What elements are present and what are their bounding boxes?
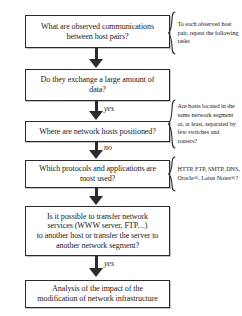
flow-node-label: Where are network hosts positioned? [28, 127, 167, 137]
flow-node-transfer-network-services[interactable]: Is it possible to transfer network servi… [25, 206, 170, 256]
flow-node-network-hosts-positioned[interactable]: Where are network hosts positioned? [25, 121, 170, 142]
annotation-text: HTTP, FTP, SMTP, DNS, Oracle®, Lotus Not… [176, 165, 240, 183]
annotation-protocol-list: HTTP, FTP, SMTP, DNS, Oracle®, Lotus Not… [168, 156, 240, 192]
curly-brace-icon [168, 156, 176, 192]
arrow-head-icon [89, 59, 103, 68]
flow-node-label: Analysis of the impact of the modificati… [28, 284, 167, 303]
flow-node-observed-communications[interactable]: What are observed communications between… [25, 15, 170, 48]
arrow-head-icon [89, 268, 103, 277]
arrow-head-icon [89, 111, 103, 120]
flow-node-large-amount-of-data[interactable]: Do they exchange a large amount of data? [25, 69, 170, 101]
flow-node-label: Is it possible to transfer network servi… [28, 212, 167, 250]
flow-node-analysis-of-impact[interactable]: Analysis of the impact of the modificati… [25, 280, 170, 308]
annotation-hosts-located: Are hosts located in the same network se… [168, 99, 240, 149]
edge-label-yes-transfer: yes [104, 259, 114, 268]
curly-brace-icon [168, 99, 176, 149]
flow-node-protocols-and-applications[interactable]: Which protocols and applications are mos… [25, 160, 170, 188]
arrow-head-icon [89, 150, 103, 159]
annotation-text: Are hosts located in the same network se… [176, 102, 240, 146]
flow-node-label: Do they exchange a large amount of data? [28, 75, 167, 94]
annotation-repeat-tasks: To each observed host pair, repeat the f… [168, 11, 240, 55]
edge-label-yes-data: yes [104, 104, 114, 113]
edge-label-no-position: no [104, 143, 112, 152]
flowchart-canvas: What are observed communications between… [0, 0, 242, 316]
flow-node-label: Which protocols and applications are mos… [28, 164, 167, 183]
curly-brace-icon [168, 11, 176, 55]
arrow-head-icon [89, 196, 103, 205]
annotation-text: To each observed host pair, repeat the f… [176, 20, 240, 46]
flow-node-label: What are observed communications between… [28, 22, 167, 41]
